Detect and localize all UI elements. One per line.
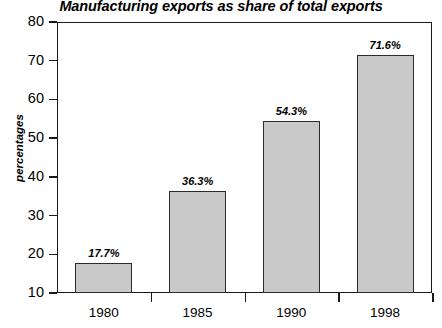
- bar: [169, 191, 226, 293]
- y-tick-mark: [49, 99, 57, 101]
- y-tick-label: 50: [4, 128, 44, 147]
- x-category-label: 1980: [59, 305, 149, 320]
- bar-value-label: 36.3%: [158, 175, 238, 187]
- x-category-label: 1998: [340, 305, 430, 320]
- y-tick-mark: [49, 21, 57, 23]
- bar-value-label: 54.3%: [251, 105, 331, 117]
- bar-chart: Manufacturing exports as share of total …: [0, 0, 442, 328]
- y-tick-label: 10: [4, 283, 44, 302]
- chart-title: Manufacturing exports as share of total …: [0, 0, 442, 14]
- x-tick-mark: [245, 293, 247, 302]
- y-tick-label: 70: [4, 51, 44, 70]
- x-category-label: 1985: [153, 305, 243, 320]
- y-tick-label: 20: [4, 244, 44, 263]
- x-tick-mark: [338, 293, 340, 302]
- y-tick-label: 30: [4, 206, 44, 225]
- x-category-label: 1990: [246, 305, 336, 320]
- y-tick-mark: [49, 60, 57, 62]
- bar: [75, 263, 132, 293]
- bar-value-label: 71.6%: [345, 39, 425, 51]
- bar: [357, 55, 414, 293]
- y-tick-mark: [49, 292, 57, 294]
- y-tick-label: 40: [4, 167, 44, 186]
- y-tick-mark: [49, 176, 57, 178]
- y-tick-label: 60: [4, 89, 44, 108]
- x-tick-mark: [432, 293, 434, 302]
- y-tick-mark: [49, 254, 57, 256]
- bar: [263, 121, 320, 293]
- y-tick-mark: [49, 137, 57, 139]
- y-tick-label: 80: [4, 12, 44, 31]
- x-tick-mark: [151, 293, 153, 302]
- bar-value-label: 17.7%: [64, 247, 144, 259]
- y-tick-mark: [49, 215, 57, 217]
